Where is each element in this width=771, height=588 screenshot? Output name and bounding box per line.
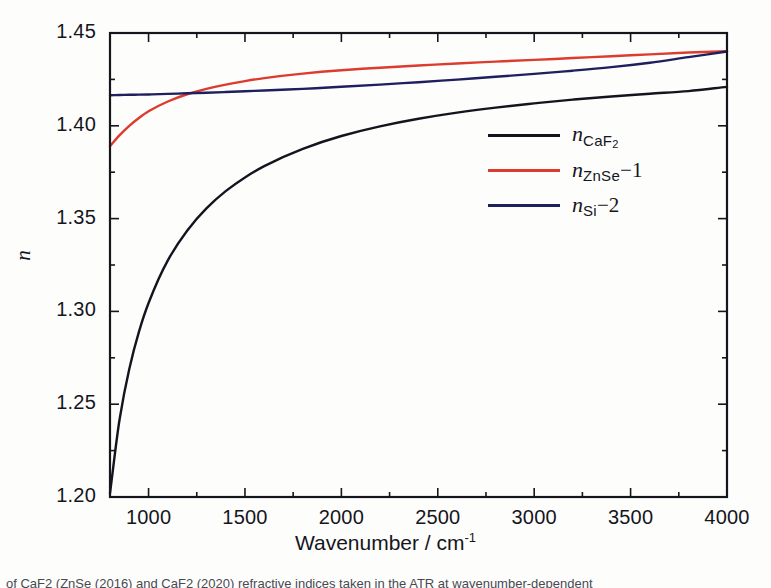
legend-entry-label: nZnSe−1 — [572, 157, 642, 184]
x-axis-title: Wavenumber / cm-1 — [0, 531, 771, 555]
y-axis-tick-label: 1.25 — [10, 391, 96, 414]
legend-subscript: Si — [583, 202, 597, 219]
legend-color-swatch — [488, 204, 560, 207]
legend-entry-label: nSi−2 — [572, 192, 619, 219]
legend-subscript: CaF2 — [583, 132, 619, 149]
legend-entry[interactable]: nSi−2 — [488, 188, 688, 223]
x-axis-tick-label: 3000 — [484, 506, 584, 529]
x-axis-tick-label: 1000 — [99, 506, 199, 529]
x-axis-tick-label: 1500 — [195, 506, 295, 529]
legend-color-swatch — [488, 134, 560, 137]
legend-entry[interactable]: nZnSe−1 — [488, 153, 688, 188]
y-axis-tick-label: 1.40 — [10, 113, 96, 136]
y-axis-tick-label: 1.20 — [10, 484, 96, 507]
chart-legend: nCaF2nZnSe−1nSi−2 — [488, 118, 688, 223]
x-axis-title-exponent: -1 — [465, 530, 477, 545]
y-axis-tick-label: 1.35 — [10, 206, 96, 229]
x-axis-tick-label: 4000 — [677, 506, 771, 529]
x-axis-tick-label: 3500 — [581, 506, 681, 529]
x-axis-tick-label: 2500 — [388, 506, 488, 529]
legend-entry-label: nCaF2 — [572, 121, 619, 149]
legend-offset: −2 — [597, 193, 619, 217]
legend-offset: −1 — [620, 158, 642, 182]
y-axis-title: n — [11, 250, 36, 261]
legend-symbol: n — [572, 121, 583, 146]
x-axis-title-text: Wavenumber / cm — [295, 531, 465, 554]
legend-subscript-text: ZnSe — [583, 167, 620, 184]
legend-subscript-text: CaF — [583, 132, 612, 149]
figure-panel: n Wavenumber / cm-1 nCaF2nZnSe−1nSi−2 of… — [0, 0, 771, 588]
legend-color-swatch — [488, 169, 560, 172]
legend-subscript-text: Si — [583, 202, 597, 219]
y-axis-tick-label: 1.45 — [10, 20, 96, 43]
legend-subscript-number: 2 — [612, 138, 618, 150]
figure-caption: of CaF2 (ZnSe (2016) and CaF2 (2020) ref… — [0, 576, 771, 588]
chart-canvas — [0, 0, 771, 588]
plot-background — [110, 33, 727, 497]
legend-symbol: n — [572, 157, 583, 182]
x-axis-tick-label: 2000 — [291, 506, 391, 529]
legend-symbol: n — [572, 192, 583, 217]
y-axis-tick-label: 1.30 — [10, 298, 96, 321]
legend-entry[interactable]: nCaF2 — [488, 118, 688, 153]
legend-subscript: ZnSe — [583, 167, 620, 184]
